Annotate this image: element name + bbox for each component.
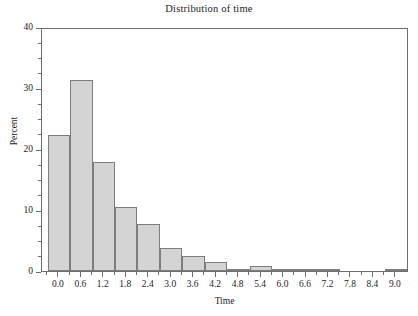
histogram-bar bbox=[227, 269, 249, 271]
histogram-bar bbox=[272, 269, 294, 271]
x-axis-tick bbox=[80, 272, 81, 277]
x-axis-tick bbox=[170, 272, 171, 277]
y-axis-tick-label: 10 bbox=[24, 206, 34, 216]
x-axis-minor-tick bbox=[316, 272, 317, 275]
histogram-bar bbox=[137, 224, 159, 271]
x-axis-tick bbox=[215, 272, 216, 277]
x-axis-tick bbox=[349, 272, 350, 277]
x-axis-tick bbox=[305, 272, 306, 277]
x-axis-minor-tick bbox=[69, 272, 70, 275]
x-axis: Time 0.00.61.21.82.43.03.64.24.85.46.06.… bbox=[0, 272, 418, 316]
x-axis-tick bbox=[192, 272, 193, 277]
chart-title: Distribution of time bbox=[0, 3, 418, 14]
x-axis-tick bbox=[282, 272, 283, 277]
histogram-bar bbox=[317, 269, 339, 271]
histogram-bar bbox=[295, 269, 317, 271]
x-axis-title: Time bbox=[41, 296, 408, 306]
histogram-bar bbox=[48, 135, 70, 271]
x-axis-minor-tick bbox=[361, 272, 362, 275]
x-axis-tick-label: 9.0 bbox=[380, 280, 410, 290]
histogram-bar bbox=[115, 207, 137, 271]
x-axis-minor-tick bbox=[91, 272, 92, 275]
x-axis-minor-tick bbox=[114, 272, 115, 275]
histogram-bar bbox=[205, 262, 227, 271]
bar-series bbox=[42, 29, 407, 271]
histogram-bar bbox=[182, 256, 204, 271]
x-axis-tick bbox=[102, 272, 103, 277]
x-axis-minor-tick bbox=[203, 272, 204, 275]
x-axis-minor-tick bbox=[158, 272, 159, 275]
x-axis-minor-tick bbox=[248, 272, 249, 275]
x-axis-tick bbox=[147, 272, 148, 277]
x-axis-tick bbox=[372, 272, 373, 277]
x-axis-minor-tick bbox=[226, 272, 227, 275]
x-axis-tick bbox=[57, 272, 58, 277]
x-axis-minor-tick bbox=[136, 272, 137, 275]
x-axis-minor-tick bbox=[338, 272, 339, 275]
x-axis-tick bbox=[260, 272, 261, 277]
y-axis-tick-label: 30 bbox=[24, 84, 34, 94]
y-axis-title: Percent bbox=[9, 101, 19, 161]
y-axis-tick-label: 40 bbox=[24, 23, 34, 33]
histogram-bar bbox=[93, 162, 115, 271]
y-axis: Percent 010203040 bbox=[0, 0, 41, 316]
x-axis-minor-tick bbox=[46, 272, 47, 275]
x-axis-tick bbox=[125, 272, 126, 277]
y-axis-tick-label: 20 bbox=[24, 145, 34, 155]
x-axis-tick bbox=[237, 272, 238, 277]
histogram-bar bbox=[250, 266, 272, 271]
histogram-bar bbox=[70, 80, 92, 271]
histogram-figure: Distribution of time Percent 010203040 T… bbox=[0, 0, 418, 316]
x-axis-minor-tick bbox=[293, 272, 294, 275]
x-axis-minor-tick bbox=[383, 272, 384, 275]
x-axis-tick bbox=[327, 272, 328, 277]
x-axis-minor-tick bbox=[271, 272, 272, 275]
histogram-bar bbox=[385, 269, 407, 271]
plot-area bbox=[41, 28, 408, 272]
histogram-bar bbox=[160, 248, 182, 271]
x-axis-minor-tick bbox=[181, 272, 182, 275]
x-axis-tick bbox=[394, 272, 395, 277]
